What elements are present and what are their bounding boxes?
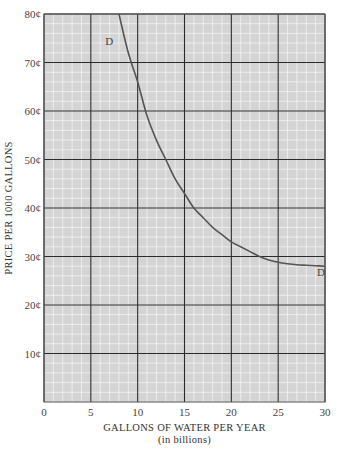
x-axis-subtitle: (in billions) [158, 434, 211, 446]
x-tick-label: 25 [273, 406, 285, 418]
y-tick-label: 80¢ [25, 8, 42, 20]
x-tick-label: 5 [88, 406, 94, 418]
y-tick-label: 10¢ [25, 348, 42, 360]
curve-label-end: D [317, 266, 325, 278]
x-tick-label: 30 [320, 406, 332, 418]
x-tick-label: 0 [41, 406, 47, 418]
y-axis-title: PRICE PER 1000 GALLONS [3, 141, 14, 275]
demand-curve-chart: 05101520253010¢20¢30¢40¢50¢60¢70¢80¢GALL… [0, 0, 341, 453]
y-tick-label: 70¢ [25, 57, 42, 69]
x-tick-label: 20 [226, 406, 238, 418]
curve-label-start: D [105, 35, 113, 47]
y-tick-label: 20¢ [25, 299, 42, 311]
x-tick-label: 10 [132, 406, 144, 418]
y-tick-label: 50¢ [25, 154, 42, 166]
x-tick-label: 15 [179, 406, 191, 418]
y-tick-label: 30¢ [25, 251, 42, 263]
x-axis-title: GALLONS OF WATER PER YEAR [103, 422, 266, 433]
y-tick-label: 60¢ [25, 105, 42, 117]
y-tick-label: 40¢ [25, 202, 42, 214]
